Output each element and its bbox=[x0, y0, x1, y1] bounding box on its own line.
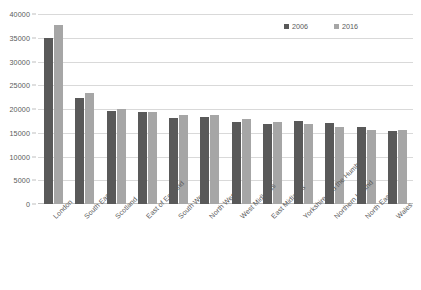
bar-group bbox=[257, 14, 288, 204]
y-axis-tick-label: 15000 bbox=[10, 128, 31, 137]
bar-2016[interactable] bbox=[367, 130, 376, 204]
bar-group bbox=[194, 14, 225, 204]
x-axis-label-cell: South East bbox=[69, 206, 100, 288]
bar-2016[interactable] bbox=[335, 127, 344, 204]
bar-2016[interactable] bbox=[398, 130, 407, 204]
x-axis-label-cell: North East bbox=[351, 206, 382, 288]
y-axis-tick-mark bbox=[32, 37, 36, 38]
bar-group bbox=[351, 14, 382, 204]
y-axis: 4000035000300002500020000150001000050000 bbox=[0, 14, 36, 204]
x-axis-label-cell: South West bbox=[163, 206, 194, 288]
bar-2016[interactable] bbox=[54, 25, 63, 204]
x-axis-label-cell: Northern Ireland bbox=[319, 206, 350, 288]
legend-label: 2016 bbox=[342, 22, 358, 31]
legend-swatch-icon bbox=[284, 24, 289, 29]
bar-2006[interactable] bbox=[75, 98, 84, 204]
bar-2016[interactable] bbox=[179, 115, 188, 204]
x-axis-label-cell: Yorkshire and the Humber bbox=[288, 206, 319, 288]
bar-group bbox=[132, 14, 163, 204]
y-axis-tick-mark bbox=[32, 85, 36, 86]
bar-2016[interactable] bbox=[117, 109, 126, 204]
bar-group bbox=[101, 14, 132, 204]
x-axis-label-cell: East of England bbox=[132, 206, 163, 288]
y-axis-tick-label: 40000 bbox=[10, 10, 31, 19]
bar-2016[interactable] bbox=[304, 124, 313, 204]
bar-group bbox=[163, 14, 194, 204]
bar-group bbox=[38, 14, 69, 204]
legend-swatch-icon bbox=[334, 24, 339, 29]
bar-2016[interactable] bbox=[210, 115, 219, 204]
y-axis-tick-mark bbox=[32, 156, 36, 157]
x-axis-labels: LondonSouth EastScotlandEast of EnglandS… bbox=[38, 206, 413, 288]
y-axis-tick-mark bbox=[32, 132, 36, 133]
x-axis-label-cell: London bbox=[38, 206, 69, 288]
bar-series-container bbox=[38, 14, 413, 204]
legend-item-2006[interactable]: 2006 bbox=[284, 22, 308, 31]
x-axis-label-cell: Scotland bbox=[101, 206, 132, 288]
chart-legend: 20062016 bbox=[284, 22, 358, 31]
y-axis-tick-label: 20000 bbox=[10, 105, 31, 114]
bar-group bbox=[69, 14, 100, 204]
bar-chart: 4000035000300002500020000150001000050000… bbox=[0, 0, 421, 290]
x-axis-label-cell: West Midlands bbox=[226, 206, 257, 288]
x-axis-tick-label: Wales bbox=[395, 201, 414, 220]
y-axis-tick-label: 0 bbox=[26, 200, 30, 209]
y-axis-tick-mark bbox=[32, 14, 36, 15]
bar-group bbox=[226, 14, 257, 204]
x-axis-label-cell: East Midlands bbox=[257, 206, 288, 288]
y-axis-tick-mark bbox=[32, 180, 36, 181]
bar-2006[interactable] bbox=[138, 112, 147, 204]
y-axis-tick-mark bbox=[32, 204, 36, 205]
bar-2016[interactable] bbox=[242, 119, 251, 204]
y-axis-tick-label: 30000 bbox=[10, 57, 31, 66]
y-axis-tick-mark bbox=[32, 61, 36, 62]
bar-group bbox=[382, 14, 413, 204]
bar-2016[interactable] bbox=[85, 93, 94, 204]
legend-label: 2006 bbox=[292, 22, 308, 31]
bar-group bbox=[288, 14, 319, 204]
y-axis-tick-mark bbox=[32, 109, 36, 110]
y-axis-tick-label: 25000 bbox=[10, 81, 31, 90]
x-axis-label-cell: Wales bbox=[382, 206, 413, 288]
y-axis-tick-label: 35000 bbox=[10, 33, 31, 42]
bar-2006[interactable] bbox=[44, 38, 53, 204]
x-axis-label-cell: North West bbox=[194, 206, 225, 288]
bar-2016[interactable] bbox=[273, 122, 282, 204]
plot-area bbox=[38, 14, 413, 204]
y-axis-tick-label: 10000 bbox=[10, 152, 31, 161]
bar-2016[interactable] bbox=[148, 112, 157, 204]
legend-item-2016[interactable]: 2016 bbox=[334, 22, 358, 31]
y-axis-tick-label: 5000 bbox=[14, 176, 30, 185]
